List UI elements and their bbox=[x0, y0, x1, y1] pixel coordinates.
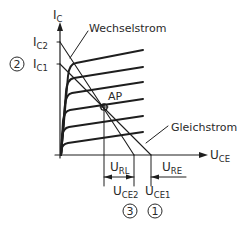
arrow-left-icon bbox=[104, 175, 112, 180]
ure-label: URE bbox=[162, 160, 182, 176]
wechselstrom-leader bbox=[70, 31, 88, 58]
curve-1 bbox=[61, 50, 143, 155]
gleichstrom-label: Gleichstrom bbox=[171, 121, 237, 134]
characteristic-curves bbox=[61, 50, 143, 155]
uce2-label: UCE2 bbox=[113, 184, 139, 200]
marker-1-label: 1 bbox=[152, 205, 159, 218]
ic2-label: IC2 bbox=[33, 35, 48, 51]
url-label: URL bbox=[110, 160, 130, 176]
gleichstrom-leader bbox=[146, 126, 168, 143]
marker-3-label: 3 bbox=[127, 205, 134, 218]
uce1-label: UCE1 bbox=[145, 184, 171, 200]
diagram-canvas: IC IC2 IC1 2 Wechselstrom Gleichstrom AP… bbox=[0, 0, 246, 234]
arrow-left-icon bbox=[151, 175, 159, 180]
operating-point-label: AP bbox=[108, 90, 123, 103]
marker-2-label: 2 bbox=[14, 58, 21, 71]
y-axis-label: IC bbox=[53, 8, 63, 24]
ic1-label: IC1 bbox=[33, 57, 48, 73]
x-axis-arrow-icon bbox=[199, 152, 208, 158]
x-axis-label: UCE bbox=[210, 148, 230, 164]
wechselstrom-label: Wechselstrom bbox=[89, 22, 166, 35]
characteristic-diagram: IC IC2 IC1 2 Wechselstrom Gleichstrom AP… bbox=[0, 0, 246, 234]
